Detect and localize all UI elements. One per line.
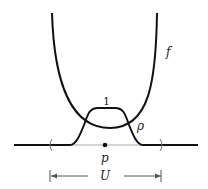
diagram-canvas: f 1 ρ p U bbox=[0, 0, 208, 189]
u-right-arrowhead-icon bbox=[155, 174, 161, 179]
u-left-arrowhead-icon bbox=[51, 174, 57, 179]
label-p: p bbox=[101, 151, 109, 165]
point-p-dot bbox=[103, 143, 108, 148]
label-rho: ρ bbox=[136, 119, 144, 133]
label-u: U bbox=[100, 169, 111, 183]
diagram-svg: f 1 ρ p U bbox=[0, 0, 208, 189]
f-curve bbox=[52, 13, 157, 128]
label-one: 1 bbox=[103, 95, 110, 108]
rho-curve bbox=[14, 108, 198, 145]
label-f: f bbox=[165, 45, 173, 59]
